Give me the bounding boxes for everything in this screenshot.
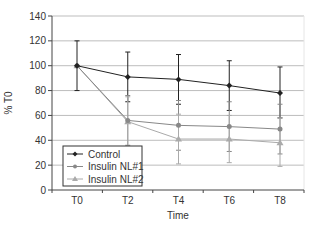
diamond-marker [125, 74, 131, 80]
circle-marker [125, 118, 130, 123]
x-tick-label: T2 [122, 195, 134, 206]
x-tick-label: T0 [71, 195, 83, 206]
diamond-marker [176, 76, 182, 82]
x-axis-ticks: T0T2T4T6T8 [52, 190, 304, 206]
legend-label: Insulin NL#1 [88, 161, 144, 172]
y-axis-ticks: 020406080100120140 [29, 11, 52, 196]
y-axis-title: % T0 [3, 91, 14, 115]
legend-label: Control [88, 149, 120, 160]
y-tick-label: 60 [35, 110, 47, 121]
y-tick-label: 0 [40, 185, 46, 196]
y-tick-label: 20 [35, 160, 47, 171]
y-tick-label: 140 [29, 11, 46, 22]
x-tick-label: T8 [274, 195, 286, 206]
x-tick-label: T4 [173, 195, 185, 206]
line-chart: 020406080100120140 T0T2T4T6T8 % T0 Time … [0, 0, 322, 229]
circle-marker [73, 165, 77, 169]
x-tick-label: T6 [223, 195, 235, 206]
y-tick-label: 100 [29, 60, 46, 71]
y-tick-label: 120 [29, 35, 46, 46]
y-tick-label: 40 [35, 135, 47, 146]
circle-marker [227, 124, 232, 129]
legend: ControlInsulin NL#1Insulin NL#2 [63, 146, 144, 186]
x-axis-title: Time [167, 210, 189, 221]
legend-label: Insulin NL#2 [88, 174, 144, 185]
y-tick-label: 80 [35, 85, 47, 96]
circle-marker [176, 123, 181, 128]
diamond-marker [226, 83, 232, 89]
circle-marker [278, 127, 283, 132]
